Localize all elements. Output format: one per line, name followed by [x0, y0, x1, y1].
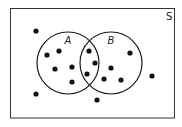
data-point [52, 66, 57, 71]
data-point [92, 60, 97, 65]
data-point [149, 73, 154, 78]
data-point [33, 91, 38, 96]
data-point [127, 50, 132, 55]
data-point [69, 64, 74, 69]
data-point [33, 28, 38, 33]
data-point [44, 52, 49, 57]
set-label-b: B [108, 35, 115, 46]
universal-set-label: S [166, 11, 172, 22]
data-point [86, 48, 91, 53]
venn-diagram: S AB [0, 0, 182, 127]
data-point [56, 48, 61, 53]
data-point [94, 97, 99, 102]
data-point [118, 77, 123, 82]
data-point [69, 79, 74, 84]
set-label-a: A [64, 35, 72, 46]
data-point [108, 65, 113, 70]
data-point [101, 76, 106, 81]
data-point [84, 71, 89, 76]
